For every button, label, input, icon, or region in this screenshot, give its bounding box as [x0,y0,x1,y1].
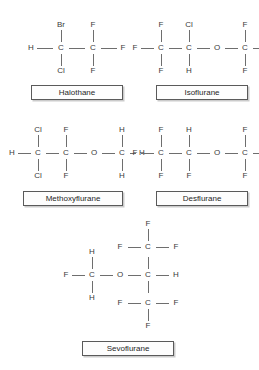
atom-c1: C [32,149,44,157]
bond-c1-c2 [69,48,85,49]
atom-f-bottom: F [87,67,99,75]
atom-c2: C [183,149,195,157]
bond-c2-o [74,153,87,154]
atom-h-right: H [170,271,182,279]
bond-c2-h [189,54,190,66]
bond-f-c1 [141,48,154,49]
bond-c1-f-bottom [161,159,162,171]
atom-h-bottom-1: H [86,294,98,302]
atom-f-down-right: F [170,299,182,307]
bond-c1-f-bottom [161,54,162,66]
bond-c1-h-bottom [92,281,93,293]
atom-br-top: Br [55,21,67,29]
bond-c3-f-top [245,135,246,147]
atom-f-bottom-3: F [239,67,251,75]
atom-o: O [211,44,223,52]
bond-c2-f-top [93,30,94,42]
bond-c1-c2 [46,153,59,154]
atom-h-bottom-3: H [116,172,128,180]
atom-c3: C [239,149,251,157]
label-sevoflurane: Sevoflurane [82,341,174,356]
atom-h-left: H [6,149,18,157]
atom-f-up-top: F [142,220,154,228]
atom-f-bottom-1: F [155,172,167,180]
bond-cdown-f-right [156,303,169,304]
bond-c1-cl-top [38,135,39,147]
atom-f-down-left: F [114,299,126,307]
bond-o-c3 [225,153,238,154]
bond-cup-f-top [148,229,149,241]
bond-c3-h-top [122,135,123,147]
bond-c1-br [61,30,62,42]
atom-c1: C [55,44,67,52]
atom-h-top-3: H [116,126,128,134]
bond-cup-f-left [128,247,141,248]
bond-c2-h-top [189,135,190,147]
atom-f-bottom: F [60,172,72,180]
bond-c3-f-top [245,30,246,42]
atom-f-bottom-3: F [239,172,251,180]
bond-c2-cup [148,257,149,269]
atom-c1: C [155,44,167,52]
label-isoflurane: Isoflurane [156,85,248,100]
atom-cl-bottom: Cl [55,67,67,75]
atom-c-down: C [142,299,154,307]
bond-c2-o [197,48,210,49]
bond-c2-f-bottom [189,159,190,171]
atom-f-top-3: F [239,21,251,29]
atom-f-top-1: F [155,21,167,29]
label-halothane: Halothane [31,85,123,100]
atom-cl-top: Cl [183,21,195,29]
atom-c3: C [239,44,251,52]
bond-c3-f-bottom [245,159,246,171]
bond-c2-h-right [156,275,169,276]
atom-cl-bottom: Cl [32,172,44,180]
atom-f-left: F [129,44,141,52]
bond-h-c1 [37,48,53,49]
atom-f-down-bottom: F [142,322,154,330]
atom-h-top-2: H [183,126,195,134]
bond-c3-h-bottom [122,159,123,171]
atom-f-left: F [60,271,72,279]
bond-h-c1 [18,153,31,154]
atom-f-up-right: F [170,243,182,251]
bond-f-c1 [72,275,85,276]
bond-c2-f-bottom [93,54,94,66]
atom-c-up: C [142,243,154,251]
atom-cl-top: Cl [32,126,44,134]
atom-f-bottom-1: F [155,67,167,75]
atom-c2: C [60,149,72,157]
atom-f-up-left: F [114,243,126,251]
label-desflurane: Desflurane [156,191,248,206]
bond-c1-f-top [161,135,162,147]
atom-f-top-1: F [155,126,167,134]
bond-o-c2 [128,275,141,276]
atom-f-left: F [129,149,141,157]
bond-c2-f-bottom [66,159,67,171]
anesthetic-structures-figure: H C C Br Cl F F F Halothane F C C O [0,0,259,370]
bond-c3-f-bottom [245,54,246,66]
atom-c3: C [116,149,128,157]
bond-c1-c2 [169,48,182,49]
bond-c2-f-right [101,48,117,49]
atom-f-top: F [87,21,99,29]
bond-c2-f-top [66,135,67,147]
atom-c2: C [142,271,154,279]
atom-o: O [88,149,100,157]
bond-cdown-f-bottom [148,309,149,321]
bond-f-c1 [141,153,154,154]
bond-c1-c2 [169,153,182,154]
bond-c2-cdown [148,281,149,293]
bond-o-c3 [102,153,115,154]
bond-c1-h-top [92,257,93,269]
bond-c1-f-top [161,30,162,42]
atom-h-bottom: H [183,67,195,75]
bond-c1-cl [61,54,62,66]
bond-c1-cl-bottom [38,159,39,171]
label-methoxyflurane: Methoxyflurane [23,191,123,206]
bond-cup-f-right [156,247,169,248]
atom-h-left: H [25,44,37,52]
bond-c2-cl [189,30,190,42]
atom-c1: C [155,149,167,157]
bond-o-c3 [225,48,238,49]
